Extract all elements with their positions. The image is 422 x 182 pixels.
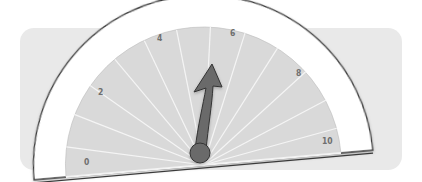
tick-label-8: 8 — [296, 68, 301, 78]
tick-label-0: 0 — [84, 157, 89, 167]
gauge-dial: 0 2 4 6 8 10 — [0, 0, 422, 182]
tick-label-10: 10 — [322, 136, 333, 146]
tick-label-6: 6 — [230, 28, 235, 38]
tick-label-2: 2 — [98, 87, 103, 97]
needle-pivot — [190, 143, 210, 163]
tick-label-4: 4 — [157, 33, 162, 43]
